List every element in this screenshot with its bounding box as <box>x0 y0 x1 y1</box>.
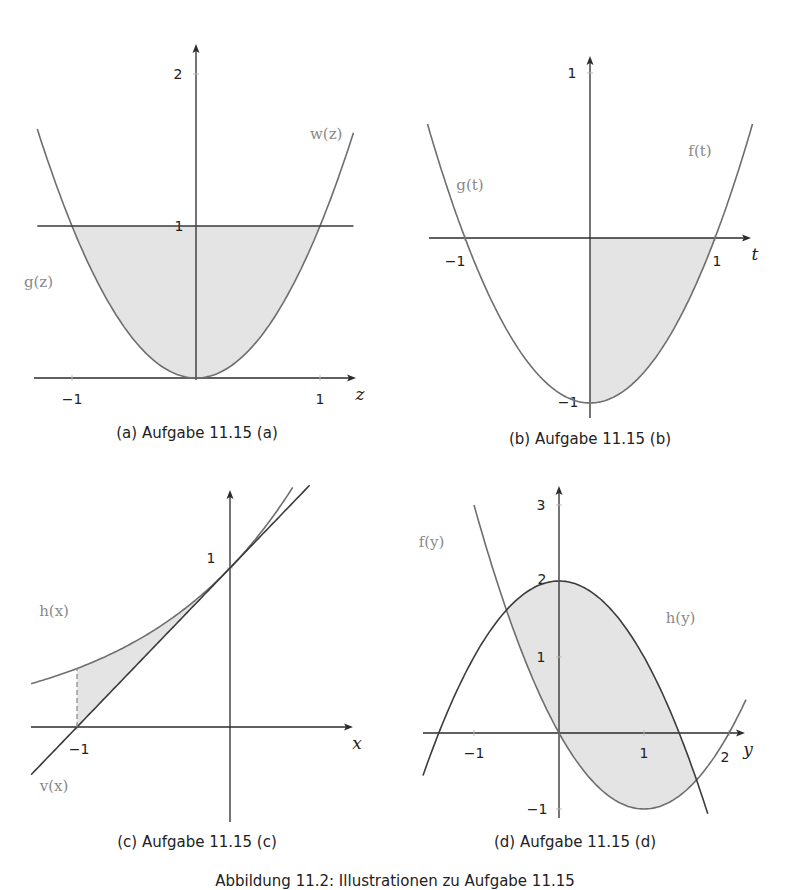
curve-hx <box>31 487 293 683</box>
curve-label: v(x) <box>39 777 69 795</box>
caption-c: (c) Aufgabe 11.15 (c) <box>117 833 277 851</box>
curve-label: h(y) <box>666 609 696 627</box>
x-tick-label: 1 <box>316 391 325 407</box>
y-tick-label: 2 <box>174 66 183 82</box>
x-tick-label: 2 <box>721 749 730 765</box>
x-axis-label: z <box>355 384 366 404</box>
x-tick-label: −1 <box>445 253 466 269</box>
curve-label: w(z) <box>310 125 342 143</box>
y-tick-label: −1 <box>527 801 548 817</box>
x-tick-label: 1 <box>640 745 649 761</box>
y-tick-label: 1 <box>568 65 577 81</box>
y-tick-label: 1 <box>537 649 546 665</box>
x-tick-label: −1 <box>69 741 90 757</box>
curve-label: f(y) <box>419 533 445 551</box>
x-axis-label: t <box>752 244 759 264</box>
curve-label: f(t) <box>688 142 711 160</box>
x-axis-label: y <box>742 739 753 759</box>
curve-label: h(x) <box>39 602 69 620</box>
y-tick-label: −1 <box>558 394 579 410</box>
y-tick-label: 3 <box>537 497 546 513</box>
curve-label: g(z) <box>24 273 53 291</box>
caption-d: (d) Aufgabe 11.15 (d) <box>494 833 656 851</box>
curve-vx <box>31 485 310 774</box>
caption-b: (b) Aufgabe 11.15 (b) <box>509 430 671 448</box>
x-tick-label: −1 <box>464 745 485 761</box>
x-tick-label: 1 <box>713 253 722 269</box>
figure-caption: Abbildung 11.2: Illustrationen zu Aufgab… <box>215 872 575 890</box>
curve-label: g(t) <box>456 176 483 194</box>
x-tick-label: −1 <box>62 391 83 407</box>
x-axis-label: x <box>352 733 362 753</box>
caption-a: (a) Aufgabe 11.15 (a) <box>116 424 278 442</box>
shaded-area-b <box>590 238 715 403</box>
y-tick-label: 1 <box>207 550 216 566</box>
